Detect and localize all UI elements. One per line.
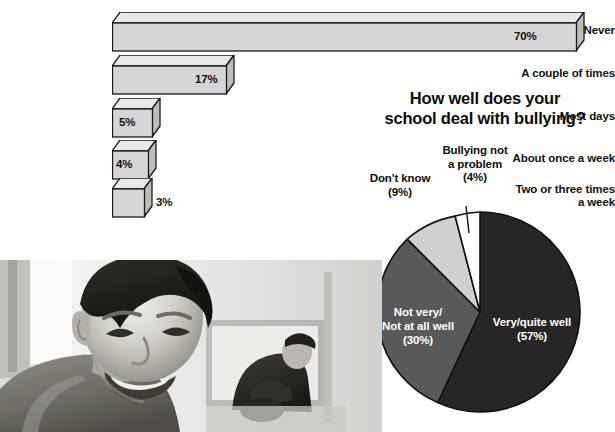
pie-chart-graphic: Very/quite well (57%) Not very/ Not at a… xyxy=(345,88,615,432)
bar-row-couple-of-times: A couple of times 17% xyxy=(0,51,615,93)
pie-inside-label-not-very-line3: (30%) xyxy=(403,334,433,346)
pie-inside-label-very-quite-well-line1: Very/quite well xyxy=(493,316,571,328)
bar-value-most-days: 5% xyxy=(119,116,135,128)
pie-chart-panel: How well does your school deal with bull… xyxy=(355,88,615,432)
bar-row-never: Never 70% xyxy=(0,8,615,50)
bar-value-couple-of-times: 17% xyxy=(195,73,217,85)
pie-inside-label-very-quite-well-line2: (57%) xyxy=(517,330,547,342)
bar-shape-two-or-three-times xyxy=(112,178,160,218)
bar-value-once-a-week: 4% xyxy=(116,158,132,170)
classroom-photo xyxy=(0,260,382,432)
bar-value-never: 70% xyxy=(514,30,536,42)
bar-shape-couple-of-times xyxy=(112,55,242,95)
photo-image xyxy=(0,260,382,432)
pie-inside-label-not-very-line2: Not at all well xyxy=(382,320,454,332)
bar-value-two-or-three-times: 3% xyxy=(156,196,172,208)
pie-inside-label-not-very-line1: Not very/ xyxy=(394,306,443,318)
bar-label-couple-of-times: A couple of times xyxy=(511,67,615,80)
